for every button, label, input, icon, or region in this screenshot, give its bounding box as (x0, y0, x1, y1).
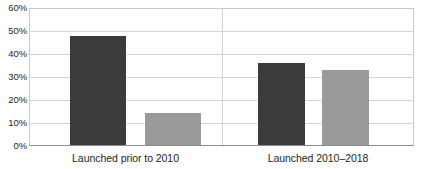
y-axis-tick-label: 60% (0, 3, 27, 13)
y-axis-tick-label: 20% (0, 95, 27, 105)
y-axis-tick-label: 10% (0, 118, 27, 128)
category-label-2: Launched 2010–2018 (222, 152, 414, 164)
bar-group2-series1 (258, 63, 305, 145)
category-label-1: Launched prior to 2010 (29, 152, 222, 164)
bar-group2-series2 (322, 70, 369, 145)
y-axis-tick-label: 0% (0, 141, 27, 151)
plot-area (29, 8, 414, 146)
bar-group1-series2 (145, 113, 201, 145)
y-axis-tick-label: 50% (0, 26, 27, 36)
y-axis-tick-label: 30% (0, 72, 27, 82)
y-axis-tick-label: 40% (0, 49, 27, 59)
y-axis: 60% 50% 40% 30% 20% 10% 0% (0, 0, 27, 169)
bar-chart: 60% 50% 40% 30% 20% 10% 0% Launched prio… (0, 0, 423, 169)
category-divider (222, 9, 223, 145)
bar-group1-series1 (70, 36, 126, 145)
